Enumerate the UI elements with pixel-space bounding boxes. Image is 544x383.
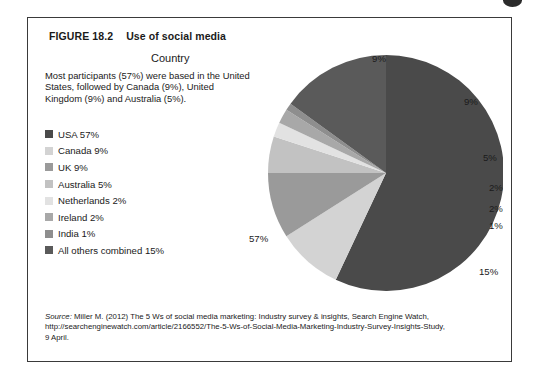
figure-source: Source: Miller M. (2012) The 5 Ws of soc… bbox=[45, 312, 500, 343]
legend-item: Australia 5% bbox=[45, 176, 255, 193]
pie-chart: 9% 9% 5% 2% 2% 1% 15% 57% bbox=[233, 48, 503, 298]
legend-item: Ireland 2% bbox=[45, 209, 255, 226]
legend-swatch-uk bbox=[45, 163, 53, 171]
chart-heading-country: Country bbox=[151, 52, 190, 64]
source-line-2: http://searchenginewatch.com/article/216… bbox=[45, 322, 445, 331]
pie-label-india: 1% bbox=[489, 220, 503, 231]
legend-swatch-ireland bbox=[45, 213, 53, 221]
legend-item: Netherlands 2% bbox=[45, 192, 255, 209]
figure-container: FIGURE 18.2Use of social media Country M… bbox=[27, 17, 512, 362]
pie-label-australia: 5% bbox=[483, 152, 497, 163]
legend-label-canada: Canada 9% bbox=[58, 145, 108, 156]
legend-item: USA 57% bbox=[45, 126, 255, 143]
pie-label-uk: 9% bbox=[464, 96, 478, 107]
legend-swatch-usa bbox=[45, 130, 53, 138]
legend-item: UK 9% bbox=[45, 159, 255, 176]
pie-label-netherlands: 2% bbox=[489, 182, 503, 193]
legend-swatch-canada bbox=[45, 147, 53, 155]
legend-label-netherlands: Netherlands 2% bbox=[58, 195, 126, 206]
legend-swatch-all-others bbox=[45, 246, 53, 254]
figure-caption: FIGURE 18.2Use of social media bbox=[49, 30, 226, 42]
legend-label-ireland: Ireland 2% bbox=[58, 212, 104, 223]
legend-swatch-australia bbox=[45, 180, 53, 188]
chart-legend: USA 57% Canada 9% UK 9% Australia 5% Net… bbox=[45, 126, 255, 259]
legend-label-usa: USA 57% bbox=[58, 129, 99, 140]
page-corner-artifact bbox=[503, 0, 522, 7]
pie-label-canada: 9% bbox=[372, 53, 386, 64]
pie-label-all-others: 15% bbox=[479, 266, 499, 277]
source-keyword: Source: bbox=[45, 312, 72, 321]
legend-item: Canada 9% bbox=[45, 143, 255, 160]
source-line-1: Miller M. (2012) The 5 Ws of social medi… bbox=[72, 312, 429, 321]
legend-label-uk: UK 9% bbox=[58, 162, 88, 173]
legend-label-india: India 1% bbox=[58, 228, 95, 239]
figure-title: Use of social media bbox=[126, 30, 226, 42]
legend-swatch-netherlands bbox=[45, 197, 53, 205]
legend-swatch-india bbox=[45, 230, 53, 238]
legend-item: India 1% bbox=[45, 226, 255, 243]
figure-description: Most participants (57%) were based in th… bbox=[45, 70, 253, 104]
pie-slices bbox=[268, 55, 503, 291]
source-line-3: 9 April. bbox=[45, 333, 69, 342]
pie-label-usa: 57% bbox=[249, 233, 269, 244]
pie-label-ireland: 2% bbox=[489, 203, 503, 214]
figure-number: FIGURE 18.2 bbox=[49, 30, 113, 42]
legend-item: All others combined 15% bbox=[45, 242, 255, 259]
legend-label-australia: Australia 5% bbox=[58, 179, 112, 190]
legend-label-all-others: All others combined 15% bbox=[58, 245, 164, 256]
pie-chart-svg: 9% 9% 5% 2% 2% 1% 15% 57% bbox=[233, 48, 503, 298]
